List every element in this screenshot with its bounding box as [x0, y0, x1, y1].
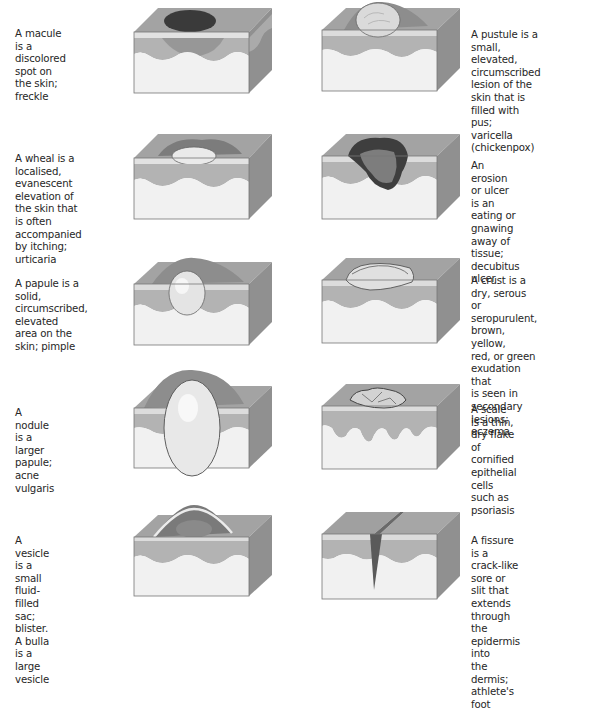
- vesicle-description: A vesicle is a small fluid- filled sac; …: [15, 535, 49, 686]
- text-line: A papule is a solid,: [15, 278, 88, 303]
- text-line: the skin that is often: [15, 203, 82, 228]
- text-line: the dermis; athlete's foot: [471, 661, 520, 711]
- text-line: eating or gnawing away of: [471, 210, 520, 248]
- text-line: is a large vesicle: [15, 648, 49, 686]
- wheal-skin-block-illustration: [132, 132, 274, 222]
- fissure-description: A fissure is a crack-like sore or slit t…: [471, 535, 520, 711]
- text-line: circumscribed lesion of the: [471, 67, 541, 92]
- text-line: A vesicle is a small fluid-: [15, 535, 49, 598]
- erosion-skin-block-illustration: [320, 132, 462, 222]
- text-line: area on the skin; pimple: [15, 328, 88, 353]
- macule-description: A macule is a discolored spot on the ski…: [15, 28, 66, 104]
- text-line: A macule is a discolored: [15, 28, 66, 66]
- text-line: circumscribed, elevated: [15, 303, 88, 328]
- text-line: A fissure is a crack-like: [471, 535, 520, 573]
- erosion-description: An erosion or ulcer is an eating or gnaw…: [471, 160, 520, 286]
- vesicle-skin-block-illustration: [132, 503, 274, 599]
- nodule-description: A nodule is a larger papule; acne vulgar…: [15, 407, 54, 495]
- pustule-description: A pustule is a small, elevated, circumsc…: [471, 29, 541, 155]
- papule-description: A papule is a solid, circumscribed, elev…: [15, 278, 88, 354]
- text-line: evanescent elevation of: [15, 178, 82, 203]
- nodule-skin-block-illustration: [132, 368, 274, 480]
- text-line: An erosion or ulcer is an: [471, 160, 520, 210]
- text-line: A nodule is a larger: [15, 407, 54, 457]
- text-line: skin that is filled with pus;: [471, 92, 541, 130]
- fissure-skin-block-illustration: [320, 510, 462, 602]
- text-line: papule; acne vulgaris: [15, 457, 54, 495]
- pustule-skin-block-illustration: [320, 2, 462, 94]
- text-line: red, or green exudation that: [471, 351, 537, 389]
- text-line: filled sac; blister. A bulla: [15, 598, 49, 648]
- text-line: A crust is a dry, serous or: [471, 275, 537, 313]
- wheal-description: A wheal is a localised, evanescent eleva…: [15, 153, 82, 266]
- text-line: cells such as psoriasis: [471, 480, 517, 518]
- text-line: varicella (chickenpox): [471, 130, 541, 155]
- macule-skin-block-illustration: [132, 6, 274, 96]
- text-line: sore or slit that extends: [471, 573, 520, 611]
- scale-skin-block-illustration: [320, 384, 462, 472]
- scale-description: A scale is a thin, dry flake of cornifie…: [471, 404, 517, 517]
- text-line: A scale is a thin, dry flake: [471, 404, 517, 442]
- text-line: A pustule is a small, elevated,: [471, 29, 541, 67]
- text-line: accompanied by itching;: [15, 229, 82, 254]
- text-line: seropurulent, brown, yellow,: [471, 313, 537, 351]
- text-line: urticaria: [15, 254, 82, 267]
- crust-skin-block-illustration: [320, 258, 462, 346]
- text-line: through the epidermis into: [471, 611, 520, 661]
- text-line: of cornified epithelial: [471, 442, 517, 480]
- text-line: A wheal is a localised,: [15, 153, 82, 178]
- text-line: spot on the skin; freckle: [15, 66, 66, 104]
- papule-skin-block-illustration: [132, 256, 274, 348]
